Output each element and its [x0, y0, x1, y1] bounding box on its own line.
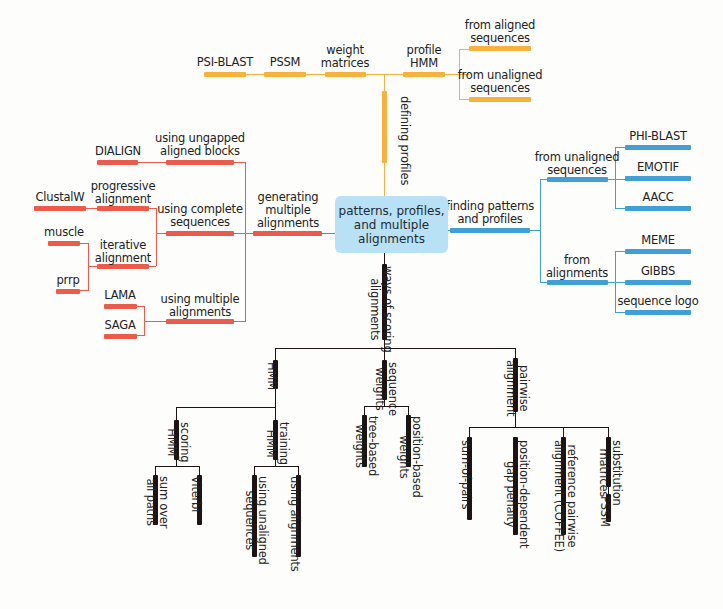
node-label: EMOTIF: [622, 161, 694, 174]
node-label: from unaligned sequences: [455, 69, 545, 95]
node-saga[interactable]: [104, 334, 137, 339]
node-dialign[interactable]: [97, 160, 138, 165]
node-label: tree-based weights: [353, 416, 379, 476]
connector: [469, 427, 609, 428]
branch-label: defining profiles: [398, 96, 411, 185]
node-label: iterative alignment: [88, 239, 158, 265]
node-from-alignments[interactable]: [547, 280, 608, 285]
node-defining-profiles[interactable]: [382, 91, 387, 163]
node-label: prrp: [50, 274, 86, 287]
branch-label: generating multiple alignments: [248, 191, 328, 230]
connector: [615, 312, 625, 313]
node-label: sequence weights: [373, 362, 399, 416]
node-label: using multiple alignments: [155, 293, 245, 319]
node-label: muscle: [40, 226, 88, 239]
node-label: DIALIGN: [92, 145, 144, 158]
node-label: pairwise alignment: [504, 360, 530, 416]
node-label: sum-of-pairs: [459, 440, 472, 509]
node-generating-multiple-alignments[interactable]: [253, 231, 322, 236]
node-meme[interactable]: [625, 249, 691, 254]
node-label: progressive alignment: [88, 180, 158, 206]
connector: [275, 348, 516, 349]
node-gibbs[interactable]: [625, 280, 691, 285]
node-label: PSSM: [598, 496, 611, 527]
node-label: position-based weights: [397, 416, 423, 498]
node-muscle[interactable]: [48, 241, 80, 246]
connector: [176, 407, 276, 408]
center-topic[interactable]: patterns, profiles, and multiple alignme…: [335, 196, 448, 253]
connector: [540, 179, 547, 180]
connector: [364, 406, 409, 407]
node-label: position-dependent gap penalty: [504, 440, 530, 548]
node-finding-patterns-and-profiles[interactable]: [450, 228, 530, 233]
node-label: MEME: [622, 234, 694, 247]
node-label: using ungapped aligned blocks: [155, 132, 245, 158]
node-sequence-logo[interactable]: [625, 310, 691, 315]
node-emotif[interactable]: [625, 176, 691, 181]
node-label: from alignments: [537, 254, 617, 280]
node-using-complete-sequences[interactable]: [166, 231, 234, 236]
connector: [615, 147, 625, 148]
connector: [608, 427, 609, 437]
node-pssm[interactable]: [264, 72, 306, 77]
node-label: GIBBS: [622, 265, 694, 278]
node-clustalw[interactable]: [34, 206, 86, 211]
connector: [245, 162, 246, 322]
node-label: sum over all paths: [144, 476, 170, 528]
connector: [88, 266, 97, 267]
node-using-multiple-alignments[interactable]: [166, 319, 234, 324]
node-label: ClustalW: [30, 191, 90, 204]
node-label: Viterbi: [189, 476, 202, 512]
node-phi-blast[interactable]: [625, 145, 691, 150]
connector: [234, 321, 246, 322]
node-label: training HMM: [264, 422, 290, 465]
node-profile-hmm[interactable]: [403, 72, 445, 77]
connector: [459, 99, 469, 100]
node-from-unaligned-sequences[interactable]: [469, 97, 531, 102]
node-label: SAGA: [98, 319, 142, 332]
node-label: PSI-BLAST: [196, 56, 254, 69]
node-psi-blast[interactable]: [204, 72, 246, 77]
node-aacc[interactable]: [625, 206, 691, 211]
connector: [149, 266, 156, 267]
node-label: reference pairwise alignment (COFFEE): [552, 440, 578, 552]
node-label: from aligned sequences: [460, 19, 540, 45]
connector: [144, 321, 166, 322]
node-prrp[interactable]: [56, 289, 80, 294]
node-label: using alignments: [288, 476, 301, 572]
connector: [615, 208, 625, 209]
node-label: scoring HMM: [165, 422, 191, 462]
connector: [137, 335, 145, 336]
connector: [234, 162, 246, 163]
connector: [608, 179, 625, 180]
connector: [540, 282, 547, 283]
connector: [459, 49, 469, 50]
branch-label: ways of scoring alignments: [368, 266, 394, 353]
node-lama[interactable]: [104, 304, 137, 309]
node-label: using complete sequences: [155, 203, 245, 229]
connector: [469, 427, 470, 437]
connector: [254, 466, 299, 467]
connector: [615, 251, 625, 252]
node-label: profile HMM: [394, 44, 454, 70]
node-label: PHI-BLAST: [622, 130, 694, 143]
node-weight-matrices[interactable]: [325, 72, 366, 77]
node-label: AACC: [622, 191, 694, 204]
connector: [563, 427, 564, 437]
node-label: weight matrices: [315, 44, 375, 70]
connector: [156, 233, 166, 234]
node-label: HMM: [265, 362, 278, 390]
node-label: from unaligned sequences: [532, 151, 622, 177]
connector: [86, 208, 97, 209]
node-from-aligned-sequences[interactable]: [469, 46, 531, 51]
node-label: LAMA: [98, 289, 142, 302]
node-using-ungapped-aligned-blocks[interactable]: [166, 160, 234, 165]
node-progressive-alignment[interactable]: [97, 206, 149, 211]
connector: [608, 282, 625, 283]
connector: [80, 290, 89, 291]
connector: [138, 162, 166, 163]
node-label: sequence logo: [614, 295, 702, 308]
connector: [234, 233, 254, 234]
connector: [155, 466, 200, 467]
node-from-unaligned-sequences[interactable]: [547, 177, 608, 182]
